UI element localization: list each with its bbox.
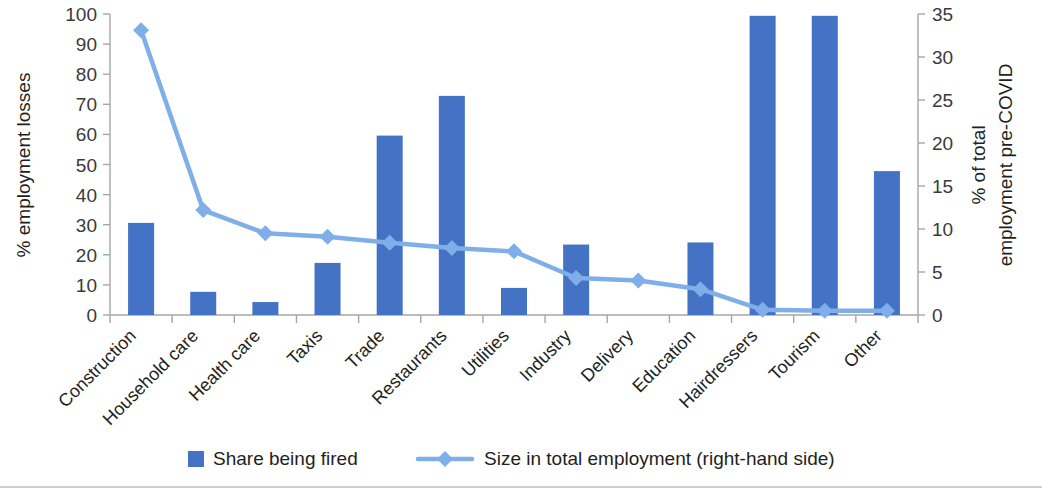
left-axis-tick-label: 50 — [76, 155, 97, 176]
bar-taxis — [315, 263, 341, 315]
left-axis-tick-label: 30 — [76, 215, 97, 236]
line-marker-taxis — [320, 229, 336, 245]
line-marker-utilities — [506, 243, 522, 259]
x-axis-category-label: Utilities — [458, 326, 513, 381]
x-axis-category-label: Trade — [342, 326, 389, 373]
legend-label-size-in-total-employment: Size in total employment (right-hand sid… — [484, 448, 835, 469]
bar-household-care — [190, 292, 216, 315]
bar-other — [874, 171, 900, 315]
legend-swatch-share-being-fired — [188, 451, 204, 467]
employment-losses-chart: 010203040506070809010005101520253035% em… — [0, 0, 1042, 488]
bar-education — [687, 242, 713, 315]
bar-utilities — [501, 288, 527, 315]
x-axis-category-label: Taxis — [283, 326, 326, 369]
right-axis-title-line2: employment pre-COVID — [995, 64, 1016, 267]
left-axis-tick-label: 60 — [76, 124, 97, 145]
left-axis-tick-label: 10 — [76, 275, 97, 296]
right-axis-tick-label: 10 — [932, 219, 953, 240]
right-axis-tick-label: 30 — [932, 47, 953, 68]
line-marker-health-care — [257, 225, 273, 241]
left-axis-title: % employment losses — [13, 73, 34, 258]
left-axis-tick-label: 40 — [76, 185, 97, 206]
line-marker-delivery — [630, 273, 646, 289]
left-axis-tick-label: 70 — [76, 94, 97, 115]
right-axis-tick-label: 25 — [932, 90, 953, 111]
x-axis-category-label: Tourism — [765, 326, 824, 385]
chart-container: 010203040506070809010005101520253035% em… — [0, 0, 1042, 488]
left-axis-tick-label: 80 — [76, 64, 97, 85]
right-axis-tick-label: 5 — [932, 262, 943, 283]
left-axis-tick-label: 100 — [65, 4, 97, 25]
left-axis-tick-label: 90 — [76, 34, 97, 55]
x-axis-category-label: Industry — [516, 326, 575, 385]
legend-label-share-being-fired: Share being fired — [213, 448, 358, 469]
bar-hairdressers — [750, 16, 776, 315]
x-axis-category-label: Other — [840, 326, 886, 372]
x-axis-category-label: Delivery — [577, 326, 637, 386]
bar-restaurants — [439, 96, 465, 315]
line-marker-construction — [133, 22, 149, 38]
bar-health-care — [252, 302, 278, 315]
line-marker-household-care — [195, 202, 211, 218]
left-axis-tick-label: 20 — [76, 245, 97, 266]
right-axis-tick-label: 20 — [932, 133, 953, 154]
legend-marker-diamond — [437, 451, 453, 467]
right-axis-tick-label: 15 — [932, 176, 953, 197]
right-axis-tick-label: 0 — [932, 305, 943, 326]
right-axis-tick-label: 35 — [932, 4, 953, 25]
right-axis-title-line1: % of total — [968, 125, 989, 204]
bar-trade — [377, 136, 403, 315]
bar-tourism — [812, 16, 838, 315]
bar-construction — [128, 223, 154, 315]
left-axis-tick-label: 0 — [86, 305, 97, 326]
